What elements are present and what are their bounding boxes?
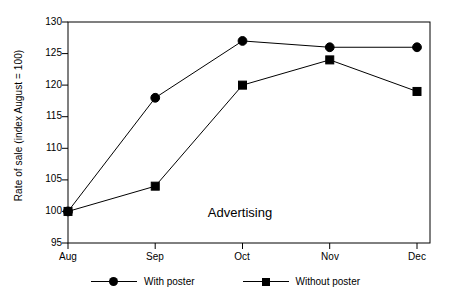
data-point-square[interactable] bbox=[151, 182, 159, 190]
x-axis-ticks bbox=[68, 243, 417, 249]
legend-label: With poster bbox=[144, 276, 195, 287]
square-marker-icon bbox=[243, 277, 289, 287]
legend-label: Without poster bbox=[296, 276, 360, 287]
data-point-square[interactable] bbox=[326, 56, 334, 64]
data-point-circle[interactable] bbox=[325, 43, 334, 52]
legend-item-without-poster[interactable]: Without poster bbox=[243, 276, 360, 287]
series-layer bbox=[64, 37, 422, 216]
chart-figure: Rate of sale (index August = 100) 130 12… bbox=[0, 0, 451, 305]
series-with-poster bbox=[64, 37, 422, 216]
circle-marker-icon bbox=[91, 277, 137, 287]
plot-area bbox=[0, 0, 451, 305]
legend-item-with-poster[interactable]: With poster bbox=[91, 276, 195, 287]
data-point-circle[interactable] bbox=[238, 37, 247, 46]
data-point-square[interactable] bbox=[239, 81, 247, 89]
data-point-square[interactable] bbox=[64, 207, 72, 215]
series-line bbox=[68, 41, 417, 211]
series-without-poster bbox=[64, 56, 421, 216]
data-point-circle[interactable] bbox=[413, 43, 422, 52]
chart-legend: With poster Without poster bbox=[0, 276, 451, 287]
axis-frame bbox=[68, 22, 430, 243]
data-point-square[interactable] bbox=[413, 87, 421, 95]
data-point-circle[interactable] bbox=[151, 93, 160, 102]
